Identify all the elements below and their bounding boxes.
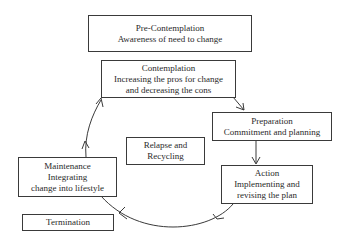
stage-title: Maintenance [44, 161, 90, 172]
stage-description: Commitment and planning [224, 127, 321, 138]
stage-description: and decreasing the cons [126, 85, 212, 96]
stage-relapse: Relapse and Recycling [126, 137, 205, 165]
stage-description: change into lifestyle [31, 183, 104, 194]
stage-description: Recycling [147, 151, 184, 162]
stage-title: Pre-Contemplation [136, 23, 205, 34]
stage-description: revising the plan [237, 190, 297, 201]
stage-title: Termination [46, 217, 90, 228]
stage-precontemplation: Pre-Contemplation Awareness of need to c… [88, 15, 252, 52]
stage-action: Action Implementing and revising the pla… [221, 165, 313, 204]
arrow-maintenance-to-contemplation [86, 100, 101, 157]
stage-maintenance: Maintenance Integrating change into life… [18, 157, 117, 197]
stage-preparation: Preparation Commitment and planning [212, 112, 332, 141]
stage-termination: Termination [22, 214, 114, 231]
stage-title: Action [255, 168, 280, 179]
stage-title: Contemplation [142, 63, 196, 74]
stage-description: Increasing the pros for change [114, 74, 223, 85]
stage-description: Awareness of need to change [118, 34, 223, 45]
stage-description: Integrating [48, 172, 88, 183]
stage-description: Implementing and [234, 179, 300, 190]
stage-contemplation: Contemplation Increasing the pros for ch… [101, 60, 236, 98]
stage-title: Preparation [251, 116, 292, 127]
stage-title: Relapse and [144, 140, 188, 151]
